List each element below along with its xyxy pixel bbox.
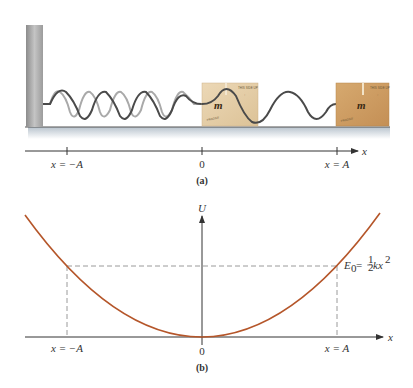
energy-equals: = xyxy=(356,259,362,271)
energy-exponent: 2 xyxy=(385,253,391,265)
svg-text:THIS SIDE UP: THIS SIDE UP xyxy=(370,86,390,90)
x-axis-label-a: x xyxy=(361,145,367,157)
tick-label-neg-a: x = −A xyxy=(50,158,83,170)
svg-text:E: E xyxy=(343,259,351,271)
energy-symbol: E xyxy=(343,259,351,271)
u-axis-label: U xyxy=(198,202,207,214)
x-axis-label-b: x xyxy=(387,331,393,343)
caption-a: (a) xyxy=(196,175,208,187)
panel-a: THIS SIDE UP ↑ m FRAGILE THIS SIDE UP ↑ … xyxy=(25,25,390,187)
mass-label: m xyxy=(214,99,223,111)
mass-label-right: m xyxy=(357,99,366,111)
shm-diagram: THIS SIDE UP ↑ m FRAGILE THIS SIDE UP ↑ … xyxy=(0,0,413,388)
tick-label-pos-a: x = A xyxy=(324,158,350,170)
tick-label-zero-b: 0 xyxy=(199,345,205,357)
tick-label-zero-a: 0 xyxy=(199,158,205,170)
mass-block-extended: THIS SIDE UP ↑ m FRAGILE xyxy=(336,83,390,126)
caption-b: (b) xyxy=(196,362,208,374)
panel-b: U x E 0 = 1 2 kx 2 x = −A 0 x = A (b) xyxy=(25,202,393,374)
energy-label: E 0 = 1 2 kx 2 xyxy=(343,253,391,274)
wall xyxy=(26,25,43,127)
tick-label-neg-b: x = −A xyxy=(50,342,83,354)
tick-label-pos-b: x = A xyxy=(324,342,350,354)
spring-compressed-back xyxy=(43,91,202,116)
svg-text:THIS SIDE UP: THIS SIDE UP xyxy=(238,86,258,90)
floor-shadow xyxy=(28,127,390,139)
energy-kx: kx xyxy=(373,259,383,271)
